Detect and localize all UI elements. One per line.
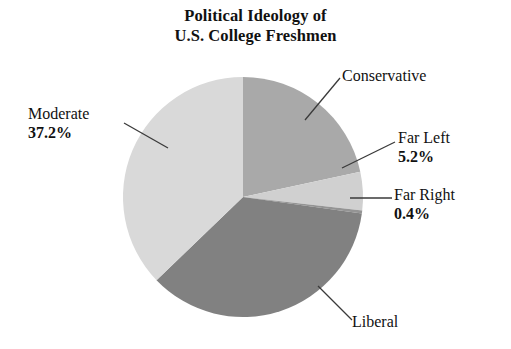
pie-graphic [0,0,511,349]
pie-label-far-right: Far Right 0.4% [394,185,455,223]
pie-label-liberal-name: Liberal [352,312,398,331]
leader-line-liberal [318,286,352,320]
pie-label-moderate: Moderate 37.2% [28,104,89,142]
pie-chart-figure: Political Ideology of U.S. College Fresh… [0,0,511,349]
pie-slices [123,77,363,317]
pie-label-far-left-name: Far Left [398,128,450,147]
pie-label-far-left: Far Left 5.2% [398,128,450,166]
pie-label-moderate-percent: 37.2% [28,123,89,142]
pie-label-far-left-percent: 5.2% [398,147,450,166]
pie-label-moderate-name: Moderate [28,104,89,123]
pie-label-conservative: Conservative [342,66,426,85]
pie-label-conservative-name: Conservative [342,66,426,85]
pie-label-far-right-percent: 0.4% [394,204,455,223]
pie-label-liberal: Liberal [352,312,398,331]
pie-label-far-right-name: Far Right [394,185,455,204]
